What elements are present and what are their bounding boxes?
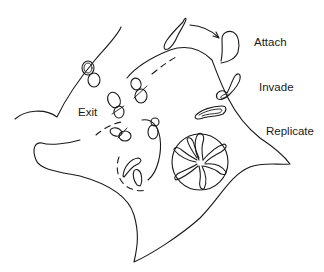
exiting-parasite-1	[123, 158, 141, 177]
label-invade: Invade	[259, 82, 294, 94]
attached-parasite	[221, 31, 239, 63]
membrane-segment-dashed	[152, 56, 178, 74]
lifecycle-diagram: Attach Invade Replicate Exit	[0, 0, 324, 272]
egressing-parasite-pair-3	[109, 127, 131, 141]
label-exit: Exit	[78, 107, 97, 119]
vacuole-parasite-outer	[195, 106, 226, 119]
exiting-parasite-2	[133, 170, 141, 186]
free-parasite	[164, 18, 186, 49]
host-cell-outline	[34, 48, 290, 262]
attach-arrow	[190, 25, 218, 37]
invading-parasite-outer	[216, 74, 240, 100]
parasite-on-neighbor-cell	[82, 61, 100, 87]
egressing-parasite-pair-1	[105, 90, 124, 118]
egressing-parasite-pair-2	[129, 77, 147, 103]
lysing-vacuole-dashed	[117, 157, 148, 191]
neighbor-cell-outline	[15, 27, 121, 119]
label-attach: Attach	[254, 37, 287, 49]
label-replicate: Replicate	[266, 126, 314, 138]
rosette-parasites	[174, 133, 226, 189]
